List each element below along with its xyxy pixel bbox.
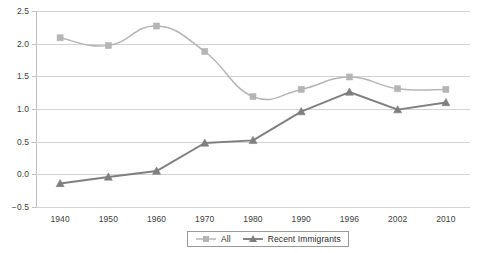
x-tick-label: 1950 bbox=[99, 214, 118, 224]
gridline bbox=[36, 207, 470, 208]
series-line bbox=[60, 26, 446, 100]
legend-entry-recent-immigrants: Recent Immigrants bbox=[242, 230, 341, 248]
data-point-marker bbox=[443, 86, 449, 92]
plot-area: 2.52.01.51.00.50.0−0.5 19401950196019701… bbox=[36, 11, 470, 207]
data-point-marker bbox=[345, 88, 353, 95]
data-point-marker bbox=[105, 43, 111, 49]
legend-label: All bbox=[221, 234, 231, 244]
legend-square-marker-icon bbox=[195, 230, 217, 248]
series-recent-immigrants bbox=[56, 88, 450, 187]
line-chart: 2.52.01.51.00.50.0−0.5 19401950196019701… bbox=[0, 0, 483, 253]
data-point-marker bbox=[154, 23, 160, 29]
data-point-marker bbox=[346, 74, 352, 80]
y-tick-label: −0.5 bbox=[12, 202, 29, 212]
y-tick-label: 1.0 bbox=[17, 104, 29, 114]
y-tick-label: 0.5 bbox=[17, 137, 29, 147]
x-tick-label: 2002 bbox=[388, 214, 407, 224]
data-point-marker bbox=[202, 49, 208, 55]
y-tick-mark bbox=[32, 207, 36, 208]
y-tick-label: 1.5 bbox=[17, 71, 29, 81]
x-tick-label: 1996 bbox=[340, 214, 359, 224]
y-tick-label: 0.0 bbox=[17, 169, 29, 179]
x-tick-label: 1960 bbox=[147, 214, 166, 224]
legend-label: Recent Immigrants bbox=[268, 234, 341, 244]
x-tick-label: 1970 bbox=[195, 214, 214, 224]
x-tick-label: 1980 bbox=[243, 214, 262, 224]
series-all bbox=[57, 23, 449, 100]
chart-legend: AllRecent Immigrants bbox=[187, 231, 349, 247]
data-point-marker bbox=[57, 35, 63, 41]
series-layer bbox=[36, 11, 470, 207]
legend-triangle-marker-icon bbox=[242, 230, 264, 248]
legend-entry-all: All bbox=[195, 230, 231, 248]
data-point-marker bbox=[298, 86, 304, 92]
x-tick-label: 2010 bbox=[436, 214, 455, 224]
y-tick-label: 2.5 bbox=[17, 6, 29, 16]
x-tick-label: 1990 bbox=[292, 214, 311, 224]
y-tick-label: 2.0 bbox=[17, 39, 29, 49]
data-point-marker bbox=[250, 94, 256, 100]
x-tick-label: 1940 bbox=[50, 214, 69, 224]
data-point-marker bbox=[395, 86, 401, 92]
